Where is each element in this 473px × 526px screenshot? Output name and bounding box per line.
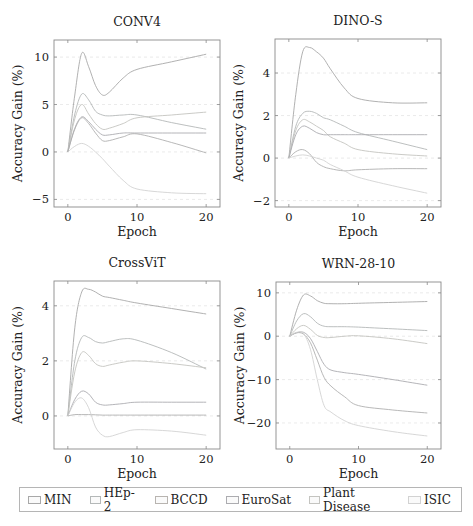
series-line-s1 [289,47,427,158]
x-tick-label: 20 [420,452,435,466]
legend-label: BCCD [171,493,208,507]
series-line-s3 [68,352,206,416]
subplot-title: CrossViT [108,255,166,270]
series-line-s4 [290,332,428,385]
legend-swatch-icon [90,496,101,504]
x-tick-label: 0 [286,452,293,466]
series-line-s4 [68,391,206,416]
legend-label: ISIC [424,493,451,507]
series-line-s1 [68,52,206,152]
subplot-crossvit: CrossViT01020024EpochAccuracy Gain (%) [10,255,220,481]
axes-frame [276,282,441,449]
legend-label: EuroSat [242,493,292,507]
series-line-s2 [68,336,206,416]
y-axis-label: Accuracy Gain (%) [10,306,25,425]
y-tick-label: 4 [263,66,270,80]
y-axis-label: Accuracy Gain (%) [232,307,247,426]
figure: CONV401020−50510EpochAccuracy Gain (%)DI… [0,0,473,526]
subplot-conv4: CONV401020−50510EpochAccuracy Gain (%) [10,14,220,239]
y-axis-label: Accuracy Gain (%) [10,65,25,184]
legend-swatch-icon [155,496,168,504]
legend-item: Plant Disease [309,486,390,514]
legend-label: Plant Disease [323,486,390,514]
series-line-s5 [68,414,206,415]
x-tick-label: 10 [130,452,145,466]
x-tick-label: 10 [351,210,366,224]
y-tick-label: 0 [42,409,49,423]
x-tick-label: 20 [420,210,435,224]
x-axis-label: Epoch [117,224,157,239]
subplot-title: DINO-S [333,13,382,28]
series-line-s5 [290,333,428,413]
y-tick-label: 0 [263,151,270,165]
x-tick-label: 0 [64,452,71,466]
y-tick-label: 5 [42,98,49,112]
x-axis-label: Epoch [338,224,378,239]
legend-label: HEp-2 [104,486,137,514]
legend-label: MIN [44,493,72,507]
series-line-s2 [290,314,428,337]
y-tick-label: 4 [42,299,49,313]
subplot-wrn-28-10: WRN-28-1001020−20−10010EpochAccuracy Gai… [232,256,441,481]
legend-swatch-icon [309,496,320,504]
legend-item: EuroSat [226,493,292,507]
series-line-s1 [68,288,206,416]
y-tick-label: −2 [253,194,270,208]
y-tick-label: 10 [256,286,271,300]
series-line-s6 [68,143,206,193]
series-line-s5 [289,150,427,171]
legend-swatch-icon [28,496,41,504]
series-line-s6 [290,332,428,436]
legend-item: BCCD [155,493,208,507]
y-tick-label: 2 [263,109,270,123]
subplot-title: WRN-28-10 [322,256,396,271]
y-tick-label: 2 [42,354,49,368]
y-axis-label: Accuracy Gain (%) [231,64,246,183]
legend-swatch-icon [226,496,239,504]
legend-item: HEp-2 [90,486,137,514]
x-tick-label: 10 [130,210,145,224]
series-line-s5 [68,118,206,153]
legend: MINHEp-2BCCDEuroSatPlant DiseaseISIC [19,487,462,512]
series-line-s3 [290,325,428,343]
y-tick-label: −5 [32,192,49,206]
series-line-s3 [68,104,206,152]
x-tick-label: 0 [64,210,71,224]
series-line-s3 [289,119,427,158]
x-axis-label: Epoch [117,466,157,481]
y-tick-label: −20 [247,416,271,430]
legend-item: MIN [28,493,72,507]
legend-item: ISIC [408,493,451,507]
subplot-dino-s: DINO-S01020−2024EpochAccuracy Gain (%) [231,13,441,239]
y-tick-label: 0 [264,329,271,343]
series-line-s6 [289,155,427,193]
series-line-s6 [68,398,206,437]
legend-swatch-icon [408,496,421,504]
x-tick-label: 0 [285,210,292,224]
series-line-s2 [68,93,206,151]
axes-frame [54,281,220,449]
y-tick-label: 0 [42,145,49,159]
y-tick-label: −10 [247,373,271,387]
x-tick-label: 10 [351,452,366,466]
x-axis-label: Epoch [339,466,379,481]
x-tick-label: 20 [199,210,214,224]
y-tick-label: 10 [34,50,49,64]
x-tick-label: 20 [199,452,214,466]
subplot-title: CONV4 [113,14,161,29]
